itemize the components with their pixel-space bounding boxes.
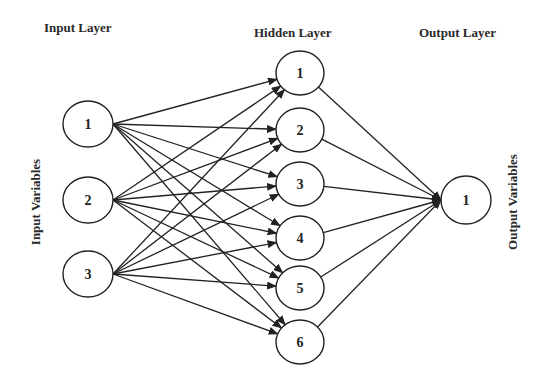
hidden-node-3: 3: [276, 162, 324, 206]
edge-input1-hidden6: [113, 124, 285, 325]
edge-input2-hidden4: [113, 200, 277, 233]
hidden-node-2: 2: [276, 108, 324, 152]
edge-input2-hidden3: [113, 186, 276, 200]
edge-input3-hidden2: [113, 144, 282, 274]
node-label: 2: [297, 123, 304, 138]
edge-input1-hidden1: [113, 79, 277, 124]
node-label: 1: [463, 193, 470, 208]
edge-input3-hidden6: [113, 274, 278, 334]
node-label: 4: [297, 231, 304, 246]
edge-input2-hidden6: [113, 200, 282, 328]
hidden-node-4: 4: [276, 216, 324, 260]
edge-input3-hidden3: [113, 194, 279, 274]
hidden-node-1: 1: [276, 51, 324, 95]
edge-hidden6-output1: [318, 200, 441, 327]
input-node-3: 3: [63, 251, 113, 297]
node-label: 6: [297, 335, 304, 350]
node-label: 3: [85, 267, 92, 282]
edge-input1-hidden4: [113, 124, 280, 226]
input-node-1: 1: [63, 101, 113, 147]
neural-network-diagram: Input Layer Hidden Layer Output Layer In…: [0, 0, 543, 381]
node-label: 1: [297, 66, 304, 81]
edge-hidden4-output1: [323, 200, 441, 233]
edge-input2-hidden5: [113, 200, 279, 278]
input-node-2: 2: [63, 177, 113, 223]
edge-hidden3-output1: [324, 186, 441, 200]
node-label: 3: [297, 177, 304, 192]
node-label: 2: [85, 193, 92, 208]
network-graph: 1231234561: [0, 0, 543, 381]
edge-hidden2-output1: [322, 139, 441, 200]
edge-input3-hidden5: [113, 274, 276, 286]
edge-hidden1-output1: [318, 87, 441, 200]
hidden-node-6: 6: [276, 320, 324, 364]
edge-hidden5-output1: [321, 200, 441, 277]
node-label: 5: [297, 281, 304, 296]
hidden-node-5: 5: [276, 266, 324, 310]
output-node-1: 1: [441, 176, 491, 224]
node-label: 1: [85, 117, 92, 132]
